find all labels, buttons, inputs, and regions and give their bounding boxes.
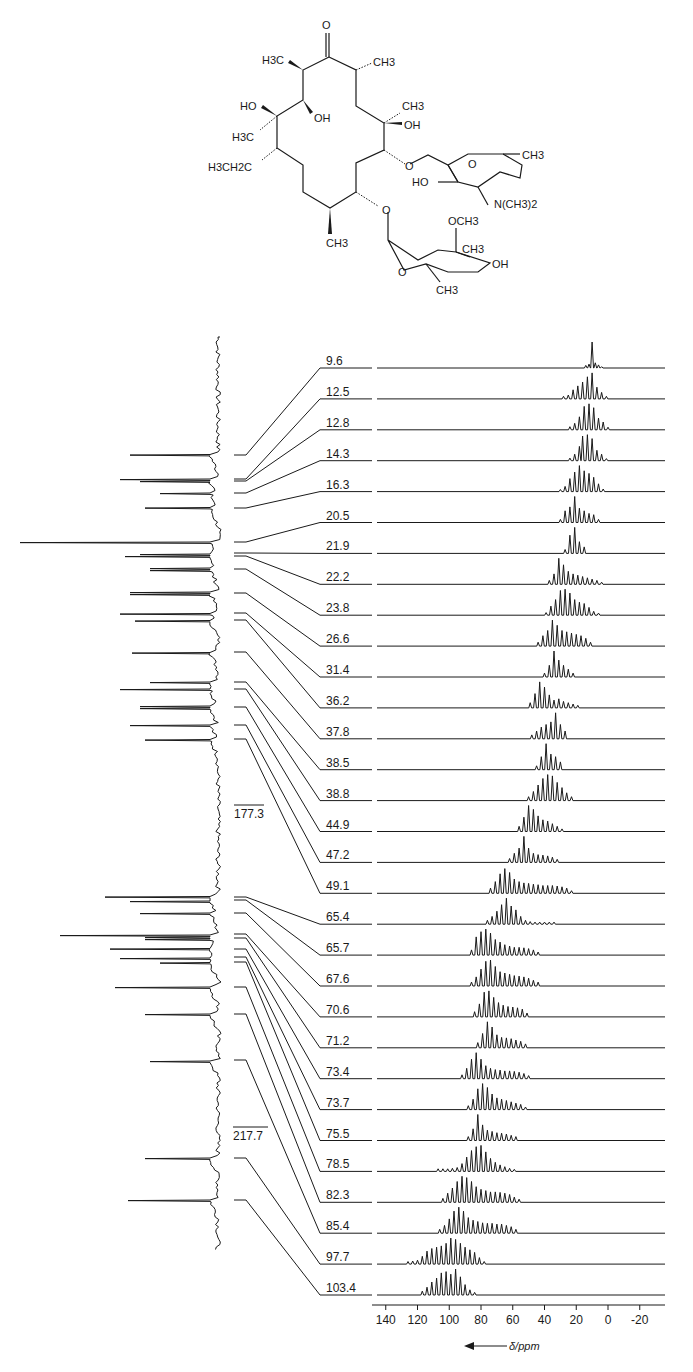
slice-shift-label: 14.3 xyxy=(326,447,350,461)
hash-bond xyxy=(262,148,277,160)
slice-row: 47.2 xyxy=(323,836,665,862)
slice-trace xyxy=(377,1084,665,1110)
slice-row: 21.9 xyxy=(323,527,665,553)
slice-row: 12.5 xyxy=(323,373,665,399)
slice-row: 12.8 xyxy=(323,404,665,430)
side-spectrum-trace xyxy=(20,337,221,1250)
x-tick-label: 140 xyxy=(376,1313,396,1327)
nmr-figure: O H3C CH3 HO OH H3C H3CH2C CH3 OH O O CH… xyxy=(0,0,693,1372)
slice-row: 85.4 xyxy=(323,1207,665,1233)
connector-line xyxy=(234,430,323,481)
label-glycosidic-oxygen-upper: O xyxy=(405,160,414,172)
spectral-slices: 9.612.512.814.316.320.521.922.223.826.63… xyxy=(323,342,665,1295)
slice-row: 38.5 xyxy=(323,744,665,770)
slice-shift-label: 103.4 xyxy=(326,1281,356,1295)
slice-shift-label: 44.9 xyxy=(326,818,350,832)
slice-row: 82.3 xyxy=(323,1176,665,1202)
axis-title: δ/ppm xyxy=(509,1340,540,1352)
slice-trace xyxy=(377,1207,665,1233)
label-ketone-oxygen: O xyxy=(322,19,331,31)
connector-line xyxy=(234,1014,323,1202)
label-dimethylamino: N(CH3)2 xyxy=(494,198,537,210)
slice-trace xyxy=(377,527,665,553)
x-tick-label: 100 xyxy=(439,1313,459,1327)
connector-line xyxy=(234,620,323,708)
wedge-bond xyxy=(328,208,332,234)
connector-line xyxy=(234,492,323,508)
slice-trace xyxy=(377,1115,665,1141)
slice-row: 97.7 xyxy=(323,1238,665,1264)
slice-trace xyxy=(377,497,665,523)
hash-bond xyxy=(384,113,400,123)
slice-shift-label: 23.8 xyxy=(326,601,350,615)
slice-row: 9.6 xyxy=(323,342,665,368)
slice-row: 44.9 xyxy=(323,806,665,832)
slice-trace xyxy=(377,744,665,770)
label-glycosidic-oxygen-lower: O xyxy=(382,204,391,216)
slice-shift-label: 37.8 xyxy=(326,725,350,739)
slice-shift-label: 9.6 xyxy=(326,354,343,368)
slice-trace xyxy=(377,869,665,894)
connector-line xyxy=(234,938,323,1048)
slice-row: 70.6 xyxy=(323,991,665,1017)
slice-trace xyxy=(377,342,665,368)
x-tick-label: 0 xyxy=(605,1313,612,1327)
slice-shift-label: 16.3 xyxy=(326,478,350,492)
slice-trace xyxy=(377,1053,665,1079)
slice-shift-label: 12.5 xyxy=(326,385,350,399)
slice-trace xyxy=(377,1269,665,1295)
hash-bond xyxy=(384,150,405,164)
slice-row: 65.7 xyxy=(323,929,665,955)
label-methyl-bottom: CH3 xyxy=(326,237,348,249)
slice-row: 23.8 xyxy=(323,589,665,615)
connector-line xyxy=(234,399,323,479)
label-sugar-hydroxy-lower: OH xyxy=(492,258,509,270)
label-methyl-right: CH3 xyxy=(402,100,424,112)
wedge-bond xyxy=(261,105,277,116)
left-arrow-icon xyxy=(464,1342,474,1350)
connector-line xyxy=(234,689,323,801)
slice-trace xyxy=(377,929,665,955)
label-methyl-top-right: CH3 xyxy=(373,56,395,68)
connector-line xyxy=(234,368,323,455)
connector-line xyxy=(234,1200,323,1295)
x-tick-label: 20 xyxy=(570,1313,584,1327)
connector-line xyxy=(234,1158,323,1264)
slice-shift-label: 73.7 xyxy=(326,1096,350,1110)
slice-shift-label: 85.4 xyxy=(326,1219,350,1233)
slice-row: 16.3 xyxy=(323,466,665,492)
slice-trace xyxy=(377,404,665,430)
slice-shift-label: 78.5 xyxy=(326,1157,350,1171)
slice-shift-label: 67.6 xyxy=(326,972,350,986)
slice-shift-label: 21.9 xyxy=(326,539,350,553)
connector-line xyxy=(234,962,323,1141)
label-ring-oxygen-upper: O xyxy=(468,158,477,170)
label-sugar-methyl-lower-2: CH3 xyxy=(436,284,458,296)
slice-trace xyxy=(377,558,665,584)
label-methoxy: OCH3 xyxy=(448,215,479,227)
slice-row: 36.2 xyxy=(323,682,665,708)
slice-shift-label: 82.3 xyxy=(326,1188,350,1202)
slice-shift-label: 31.4 xyxy=(326,663,350,677)
side-label-217: 217.7 xyxy=(233,1129,263,1143)
connector-line xyxy=(234,949,323,1079)
slice-shift-label: 75.5 xyxy=(326,1127,350,1141)
x-tick-label: 120 xyxy=(407,1313,427,1327)
slice-shift-label: 26.6 xyxy=(326,632,350,646)
label-hydroxy-left: HO xyxy=(240,100,257,112)
connector-lines xyxy=(234,368,323,1295)
slice-row: 20.5 xyxy=(323,497,665,523)
slice-shift-label: 71.2 xyxy=(326,1034,350,1048)
slice-row: 65.4 xyxy=(323,898,665,924)
slice-row: 49.1 xyxy=(323,869,665,894)
label-ring-oxygen-lower: O xyxy=(398,266,407,278)
label-hydroxy-mid: OH xyxy=(314,112,331,124)
slice-shift-label: 97.7 xyxy=(326,1250,350,1264)
slice-trace xyxy=(377,806,665,832)
figure-canvas: O H3C CH3 HO OH H3C H3CH2C CH3 OH O O CH… xyxy=(0,0,693,1372)
slice-shift-label: 47.2 xyxy=(326,848,350,862)
upper-sugar-bond xyxy=(478,187,488,205)
slice-shift-label: 65.4 xyxy=(326,910,350,924)
label-methyl-top-left: H3C xyxy=(262,54,284,66)
slice-trace xyxy=(377,1022,665,1048)
